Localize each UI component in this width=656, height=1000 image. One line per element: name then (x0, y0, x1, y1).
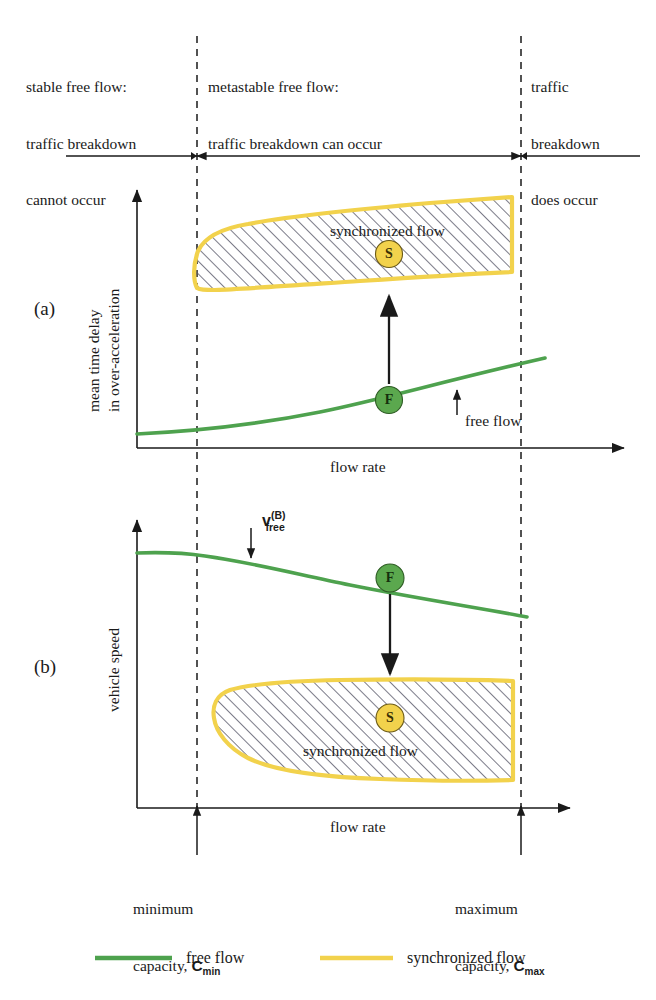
panel-b-synchronized-region (214, 679, 513, 780)
panel-a-synchronized-region (194, 197, 512, 290)
capacity-min-caption: minimum capacity, Cmin (133, 862, 220, 1000)
regime-label-stable: stable free flow: traffic breakdown cann… (26, 40, 136, 248)
panel-a-letter: (a) (34, 297, 55, 320)
panel-a-marker-S-label: S (385, 245, 393, 262)
capacity-min-prefix: capacity, (133, 957, 191, 974)
panel-b-speed-annotation-sup: (B) (271, 509, 286, 521)
figure-root: stable free flow: traffic breakdown cann… (0, 0, 656, 1000)
panel-a-curve-label: free flow (465, 412, 521, 431)
panel-b-marker-S-label: S (386, 709, 394, 726)
panel-b-region-label: synchronized flow (303, 742, 418, 761)
panel-a-ylabel-line-2: in over-acceleration (105, 289, 123, 412)
regime-label-breakdown: traffic breakdown does occur (531, 40, 600, 248)
regime-breakdown-line-3: does occur (531, 191, 600, 210)
panel-b-speed-annotation: v(B)free (262, 510, 285, 533)
capacity-max-symbol-sub: max (525, 966, 545, 977)
panel-a-ylabel-line-1: mean time delay (85, 310, 103, 412)
panel-a-marker-F-label: F (385, 391, 394, 408)
panel-b-marker-F-label: F (386, 569, 395, 586)
regime-stable-line-1: stable free flow: (26, 78, 136, 97)
regime-stable-line-2: traffic breakdown (26, 135, 136, 154)
panel-a-region-label: synchronized flow (330, 222, 445, 241)
panel-a-xlabel: flow rate (330, 458, 386, 477)
regime-breakdown-line-2: breakdown (531, 135, 600, 154)
panel-b-free-flow-curve (137, 553, 527, 617)
legend-label-synchronized-flow: synchronized flow (407, 948, 526, 968)
panel-b-letter: (b) (34, 655, 56, 678)
legend-label-free-flow: free flow (186, 948, 244, 968)
regime-metastable-line-2: traffic breakdown can occur (208, 135, 382, 154)
capacity-min-line-1: minimum (133, 900, 220, 919)
capacity-max-caption: maximum capacity, Cmax (455, 862, 545, 1000)
panel-b-xlabel: flow rate (330, 818, 386, 837)
panel-b-ylabel-line-1: vehicle speed (105, 628, 123, 712)
panel-b-speed-annotation-sub: free (265, 521, 284, 533)
capacity-max-line-1: maximum (455, 900, 545, 919)
regime-label-metastable: metastable free flow: traffic breakdown … (208, 40, 382, 191)
regime-breakdown-line-1: traffic (531, 78, 600, 97)
regime-metastable-line-1: metastable free flow: (208, 78, 382, 97)
regime-stable-line-3: cannot occur (26, 191, 136, 210)
